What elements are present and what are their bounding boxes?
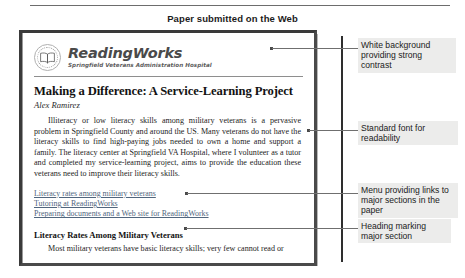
section-heading: Literacy Rates Among Military Veterans	[34, 230, 302, 240]
leader-line-2	[309, 130, 358, 131]
document-masthead: ReadingWorks Springfield Veterans Admini…	[32, 39, 305, 71]
annotation-heading-marking: Heading marking major section	[358, 219, 451, 243]
brand-subtitle: Springfield Veterans Administration Hosp…	[68, 63, 212, 69]
document-frame: ReadingWorks Springfield Veterans Admini…	[22, 32, 316, 264]
brand-name: ReadingWorks	[68, 46, 212, 61]
leader-line-1	[272, 48, 358, 49]
annotation-menu-links: Menu providing links to major sections i…	[358, 183, 458, 218]
figure-caption: Paper submitted on the Web	[0, 13, 465, 24]
annotation-white-background: White background providing strong contra…	[358, 38, 456, 73]
menu-link-tutoring[interactable]: Tutoring at ReadingWorks	[34, 199, 118, 209]
brand-block: ReadingWorks Springfield Veterans Admini…	[68, 46, 212, 68]
masthead-divider	[34, 76, 303, 77]
annotation-standard-font: Standard font for readability	[358, 121, 458, 145]
article-paragraph: Illiteracy or low literacy skills among …	[34, 116, 302, 180]
section-paragraph: Most military veterans have basic litera…	[34, 244, 302, 255]
figure-top-rule	[30, 5, 450, 6]
open-book-seal-icon	[34, 44, 61, 71]
leader-line-4	[186, 228, 358, 229]
leader-line-3	[187, 193, 358, 194]
menu-link-preparing-documents[interactable]: Preparing documents and a Web site for R…	[34, 209, 209, 219]
menu-link-literacy-rates[interactable]: Literacy rates among military veterans	[34, 189, 156, 199]
article-byline: Alex Ramirez	[34, 100, 302, 110]
article-title: Making a Difference: A Service-Learning …	[34, 84, 302, 99]
